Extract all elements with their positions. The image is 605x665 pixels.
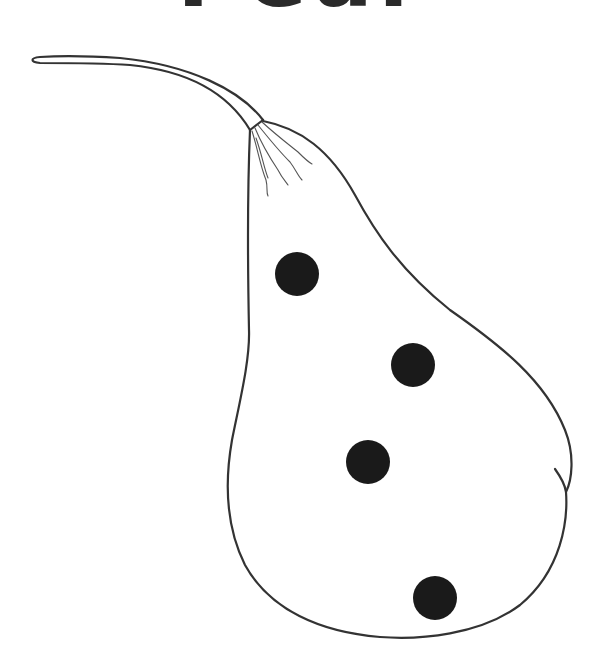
- pear-illustration: [0, 0, 605, 665]
- spot: [346, 440, 390, 484]
- pear-notch: [555, 469, 566, 492]
- spot: [391, 343, 435, 387]
- spot: [275, 252, 319, 296]
- stem-outline: [33, 56, 264, 130]
- stem-fibers: [252, 122, 312, 196]
- spot: [413, 576, 457, 620]
- pear-spots: [275, 252, 457, 620]
